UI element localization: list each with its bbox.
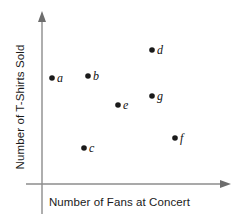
data-point-f xyxy=(172,135,178,141)
data-point-label-c: c xyxy=(89,142,94,154)
x-axis-arrowhead-icon xyxy=(220,180,231,188)
plot-canvas xyxy=(0,0,239,221)
data-point-label-g: g xyxy=(157,90,163,102)
data-point-label-d: d xyxy=(157,44,163,56)
data-point-label-a: a xyxy=(57,72,63,84)
y-axis-arrowhead-icon xyxy=(38,11,46,22)
data-point-label-e: e xyxy=(123,99,128,111)
x-axis-title: Number of Fans at Concert xyxy=(0,196,239,208)
data-point-label-f: f xyxy=(180,132,183,144)
scatter-plot-figure: a b c d e f g Number of Fans at Concert … xyxy=(0,0,239,221)
data-point-g xyxy=(149,93,155,99)
y-axis-title: Number of T-Shirts Sold xyxy=(14,27,26,187)
data-point-c xyxy=(81,145,87,151)
data-point-d xyxy=(149,47,155,53)
data-point-a xyxy=(49,75,55,81)
data-point-label-b: b xyxy=(93,70,99,82)
data-point-e xyxy=(115,102,121,108)
data-point-b xyxy=(85,73,91,79)
